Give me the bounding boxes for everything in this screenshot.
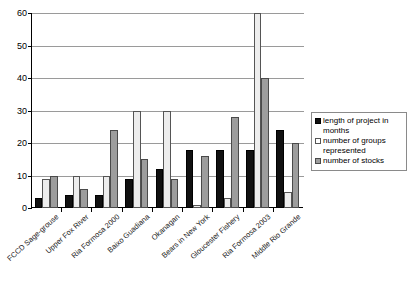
- x-tick-label: Okanagan: [150, 213, 181, 242]
- x-tick-label: Ria Formosa 2000: [70, 213, 121, 260]
- bar: [65, 195, 73, 208]
- x-tick-label: Baixo Guadiana: [106, 213, 151, 255]
- bar: [35, 198, 43, 208]
- x-tick-mark: [212, 208, 213, 212]
- y-tick-label-60: 60: [17, 9, 27, 18]
- x-tick-label: Upper Fox River: [45, 213, 91, 255]
- bar: [125, 179, 133, 208]
- bars-layer: [31, 13, 303, 208]
- bar: [276, 130, 284, 208]
- bar: [261, 78, 269, 208]
- bar: [224, 198, 232, 208]
- x-tick-mark: [152, 208, 153, 212]
- bar: [163, 111, 171, 209]
- x-tick-label: Bears in New York: [161, 213, 212, 260]
- legend-swatch-icon: [315, 118, 321, 124]
- y-tick-label-30: 30: [17, 106, 27, 115]
- x-tick-label: FCCD Sage-grouse: [6, 213, 60, 263]
- y-tick-mark-0: [28, 208, 32, 209]
- legend-item: number of groups represented: [314, 136, 403, 155]
- x-tick-mark: [122, 208, 123, 212]
- legend-item-label: length of project in months: [323, 116, 403, 135]
- bar: [42, 179, 50, 208]
- bar: [254, 13, 262, 208]
- legend-item-label: number of stocks: [323, 156, 384, 166]
- x-tick-label: Ria Formosa 2003: [221, 213, 272, 260]
- chart-legend: length of project in monthsnumber of gro…: [311, 112, 407, 171]
- y-tick-label-40: 40: [17, 74, 27, 83]
- y-tick-label-20: 20: [17, 139, 27, 148]
- x-tick-mark: [91, 208, 92, 212]
- bar: [110, 130, 118, 208]
- x-tick-mark: [243, 208, 244, 212]
- bar: [141, 159, 149, 208]
- bar: [156, 169, 164, 208]
- bar: [80, 189, 88, 209]
- bar: [284, 192, 292, 208]
- bar: [95, 195, 103, 208]
- bar: [231, 117, 239, 208]
- legend-swatch-icon: [315, 138, 321, 144]
- bar: [186, 150, 194, 209]
- legend-item-label: number of groups represented: [323, 136, 403, 155]
- x-tick-mark: [61, 208, 62, 212]
- bar: [292, 143, 300, 208]
- bar: [73, 176, 81, 209]
- bar: [171, 179, 179, 208]
- bar: [193, 205, 201, 208]
- y-tick-label-10: 10: [17, 171, 27, 180]
- bar: [103, 176, 111, 209]
- x-tick-mark: [182, 208, 183, 212]
- y-tick-label-0: 0: [22, 204, 27, 213]
- x-tick-label: Middle Rio Grande: [250, 213, 302, 261]
- bar: [246, 150, 254, 209]
- y-tick-label-50: 50: [17, 41, 27, 50]
- bar-chart: 0102030405060 FCCD Sage-grouseUpper Fox …: [0, 0, 412, 286]
- bar: [201, 156, 209, 208]
- x-tick-mark: [273, 208, 274, 212]
- x-tick-label: Gloucester Fishery: [190, 213, 242, 261]
- bar: [50, 176, 58, 209]
- legend-item: length of project in months: [314, 116, 403, 135]
- bar: [133, 111, 141, 209]
- bar: [216, 150, 224, 209]
- legend-swatch-icon: [315, 158, 321, 164]
- legend-item: number of stocks: [314, 156, 403, 166]
